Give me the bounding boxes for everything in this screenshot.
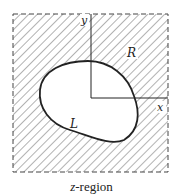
region-r-label: R [126, 46, 136, 60]
figure-caption: z-region [0, 179, 183, 195]
z-region-diagram: y x R L z-region [0, 0, 183, 196]
diagram-canvas: y x R L [0, 0, 183, 196]
curve-l-label: L [69, 117, 78, 131]
caption-text: -region [75, 179, 113, 194]
y-axis-label: y [80, 14, 88, 27]
x-axis-label: x [157, 101, 164, 114]
